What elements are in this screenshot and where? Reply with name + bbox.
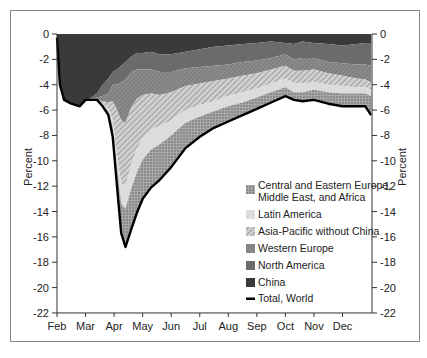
y-tick-label-right: -10 xyxy=(380,155,396,167)
x-tick-label: Jun xyxy=(162,320,180,332)
y-tick-label: -2 xyxy=(39,53,49,65)
y-tick-label-right: -14 xyxy=(380,206,396,218)
y-axis-title-right: Percent xyxy=(396,148,408,186)
y-tick-label: -10 xyxy=(33,155,49,167)
y-tick-label: -20 xyxy=(33,282,49,294)
legend-label: North America xyxy=(258,259,325,271)
legend-label: Central and Eastern Europe, xyxy=(258,179,391,191)
legend-label: Asia-Pacific without China xyxy=(258,225,380,237)
legend-item-weur: Western Europe xyxy=(246,242,334,254)
x-tick-label: Dec xyxy=(333,320,353,332)
weur-swatch-icon xyxy=(246,244,255,253)
legend-item-apac: Asia-Pacific without China xyxy=(246,225,380,237)
y-tick-label: -18 xyxy=(33,256,49,268)
legend-item-nam: North America xyxy=(246,259,325,271)
stacked-area-chart: 00-2-2-4-4-6-6-8-8-10-10-12-12-14-14-16-… xyxy=(0,0,427,358)
y-tick-label-right: -22 xyxy=(380,307,396,319)
x-tick-label: Mar xyxy=(76,320,95,332)
y-tick-label-right: -20 xyxy=(380,282,396,294)
y-tick-label-right: -18 xyxy=(380,256,396,268)
area-bands xyxy=(57,34,371,247)
legend-label: Latin America xyxy=(258,208,322,220)
latam-swatch-icon xyxy=(246,210,255,219)
y-tick-label-right: -8 xyxy=(380,129,390,141)
y-tick-label: -6 xyxy=(39,104,49,116)
x-tick-label: May xyxy=(132,320,153,332)
legend-label: Middle East, and Africa xyxy=(258,191,366,203)
legend: Central and Eastern Europe, Middle East,… xyxy=(246,179,391,304)
x-tick-label: Nov xyxy=(304,320,324,332)
legend-item-latam: Latin America xyxy=(246,208,322,220)
y-tick-label-right: -16 xyxy=(380,231,396,243)
legend-label: Western Europe xyxy=(258,242,334,254)
y-tick-label-right: -4 xyxy=(380,79,390,91)
y-axis-title-left: Percent xyxy=(22,148,34,186)
y-tick-label-right: 0 xyxy=(380,28,386,40)
y-tick-label: -22 xyxy=(33,307,49,319)
x-tick-label: Apr xyxy=(106,320,123,332)
china-swatch-icon xyxy=(246,278,255,287)
y-tick-label: -4 xyxy=(39,79,49,91)
legend-item-china: China xyxy=(246,276,286,288)
x-tick-label: Feb xyxy=(48,320,67,332)
y-tick-label: 0 xyxy=(43,28,49,40)
x-tick-label: Sep xyxy=(247,320,267,332)
y-tick-label: -8 xyxy=(39,129,49,141)
legend-label: China xyxy=(258,276,286,288)
legend-label: Total, World xyxy=(258,292,313,304)
ceemea-swatch-icon xyxy=(246,185,255,194)
x-tick-label: Aug xyxy=(219,320,239,332)
apac-swatch-icon xyxy=(246,227,255,236)
y-tick-label-right: -6 xyxy=(380,104,390,116)
total-line-swatch-icon xyxy=(246,298,255,301)
y-tick-label-right: -2 xyxy=(380,53,390,65)
nam-swatch-icon xyxy=(246,261,255,270)
legend-item-total: Total, World xyxy=(246,292,313,304)
y-tick-label: -12 xyxy=(33,180,49,192)
y-tick-label: -16 xyxy=(33,231,49,243)
legend-item-ceemea: Central and Eastern Europe, Middle East,… xyxy=(246,179,391,203)
y-tick-label: -14 xyxy=(33,206,49,218)
x-tick-label: Oct xyxy=(277,320,294,332)
x-tick-label: Jul xyxy=(193,320,207,332)
